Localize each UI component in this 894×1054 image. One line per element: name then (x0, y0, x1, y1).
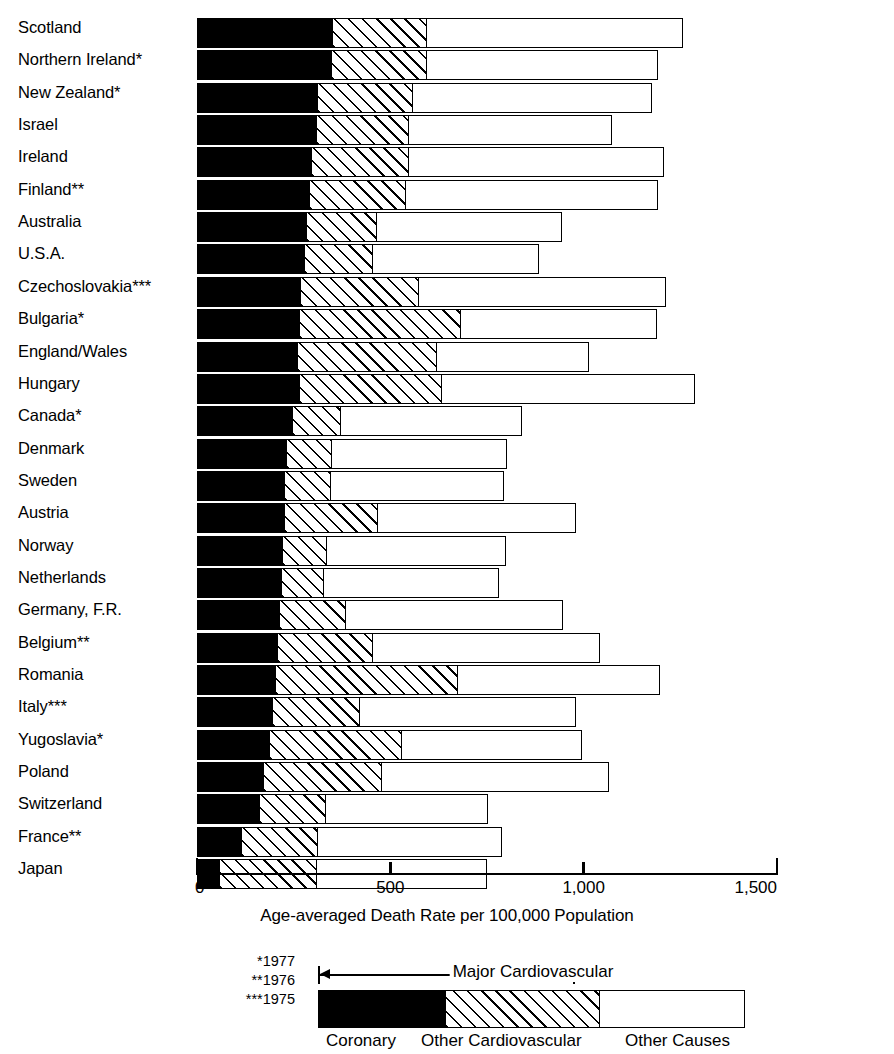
bar-segment-other-cardiovascular (317, 83, 414, 113)
x-axis-tick-label: 1,000 (562, 878, 605, 898)
bar-segment-other-causes (372, 633, 600, 663)
bar-segment-other-cardiovascular (241, 827, 318, 857)
bar-segment-other-causes (460, 309, 657, 339)
bar-segment-other-cardiovascular (292, 406, 341, 436)
bar-segment-other-cardiovascular (300, 277, 420, 307)
category-label: Norway (0, 537, 182, 554)
bar-row (197, 600, 563, 630)
bar-segment-coronary (197, 212, 308, 242)
category-label: Northern Ireland* (0, 51, 182, 68)
footnote-1977: *1977 (175, 952, 295, 971)
bar-segment-coronary (197, 342, 298, 372)
bar-row (197, 568, 499, 598)
bar-segment-other-causes (412, 83, 652, 113)
chart-legend: Major Cardiovascular Coronary Other Card… (318, 960, 748, 1054)
category-label: Belgium** (0, 634, 182, 651)
bar-segment-other-cardiovascular (297, 342, 438, 372)
bar-segment-coronary (197, 50, 332, 80)
category-label: Yugoslavia* (0, 731, 182, 748)
x-axis-tick (196, 858, 198, 875)
bar-row (197, 342, 589, 372)
x-axis-tick-label: 500 (376, 878, 404, 898)
bar-segment-coronary (197, 568, 283, 598)
x-axis (195, 862, 779, 876)
bar-segment-other-cardiovascular (286, 439, 332, 469)
category-label: Romania (0, 666, 182, 683)
legend-span-label: Major Cardiovascular (450, 962, 617, 982)
bar-segment-coronary (197, 147, 313, 177)
bar-segment-coronary (197, 665, 276, 695)
bar-segment-other-cardiovascular (279, 600, 347, 630)
bar-segment-other-causes (426, 18, 683, 48)
footnote-1975: ***1975 (175, 990, 295, 1009)
bar-segment-other-cardiovascular (259, 794, 327, 824)
category-label: Bulgaria* (0, 310, 182, 327)
legend-label-coronary: Coronary (326, 1031, 396, 1051)
bar-segment-coronary (197, 277, 301, 307)
bar-row (197, 115, 612, 145)
bar-row (197, 244, 539, 274)
bar-row (197, 277, 666, 307)
bar-segment-other-causes (418, 277, 665, 307)
category-label: England/Wales (0, 343, 182, 360)
category-label: Sweden (0, 472, 182, 489)
bar-segment-other-causes (381, 762, 609, 792)
bar-segment-other-causes (441, 374, 694, 404)
category-label: Hungary (0, 375, 182, 392)
x-axis-tick (582, 862, 584, 875)
x-axis-tick-label: 1,500 (734, 878, 777, 898)
plot-area (197, 18, 777, 865)
bar-segment-other-cardiovascular (331, 50, 428, 80)
bar-segment-other-causes (326, 536, 506, 566)
bar-row (197, 18, 683, 48)
bar-segment-other-causes (331, 439, 507, 469)
category-label: Italy*** (0, 698, 182, 715)
bar-row (197, 180, 658, 210)
legend-entry-labels: Coronary Other Cardiovascular Other Caus… (318, 1031, 748, 1054)
bar-segment-other-causes (359, 697, 576, 727)
bar-row (197, 439, 507, 469)
category-label: Ireland (0, 148, 182, 165)
category-label: U.S.A. (0, 245, 182, 262)
x-axis-line (197, 873, 777, 875)
span-left-arrowhead-icon (320, 969, 330, 979)
bar-segment-other-causes (330, 471, 504, 501)
bar-row (197, 827, 502, 857)
bar-segment-other-causes (457, 665, 660, 695)
bar-row (197, 83, 652, 113)
bar-row (197, 665, 660, 695)
bar-segment-other-cardiovascular (299, 309, 461, 339)
legend-swatch-bar (318, 990, 748, 1028)
bar-segment-other-cardiovascular (311, 147, 410, 177)
bar-row (197, 730, 582, 760)
bar-segment-other-cardiovascular (281, 568, 324, 598)
bar-row (197, 794, 488, 824)
bar-row (197, 697, 576, 727)
bar-segment-other-cardiovascular (272, 697, 361, 727)
bar-segment-coronary (197, 439, 288, 469)
bar-segment-coronary (197, 83, 319, 113)
bar-segment-coronary (197, 406, 294, 436)
bar-segment-other-cardiovascular (306, 212, 378, 242)
category-label: Israel (0, 116, 182, 133)
bar-segment-coronary (197, 730, 270, 760)
bar-row (197, 50, 658, 80)
footnote-list: *1977 **1976 ***1975 (175, 952, 295, 1009)
category-label: France** (0, 828, 182, 845)
x-axis-tick (389, 862, 391, 875)
category-label: Switzerland (0, 795, 182, 812)
bar-segment-coronary (197, 115, 318, 145)
bar-segment-other-cardiovascular (332, 18, 428, 48)
bar-segment-coronary (197, 633, 279, 663)
bar-segment-other-cardiovascular (277, 633, 373, 663)
bar-segment-other-causes (408, 147, 663, 177)
legend-span-indicator: Major Cardiovascular (318, 960, 748, 986)
bar-segment-other-cardiovascular (304, 244, 374, 274)
bar-segment-other-causes (436, 342, 589, 372)
x-axis-tick (776, 858, 778, 875)
category-label: Japan (0, 860, 182, 877)
footnote-1976: **1976 (175, 971, 295, 990)
bar-row (197, 212, 562, 242)
bar-segment-other-cardiovascular (316, 115, 410, 145)
legend-label-other-causes: Other Causes (625, 1031, 730, 1051)
